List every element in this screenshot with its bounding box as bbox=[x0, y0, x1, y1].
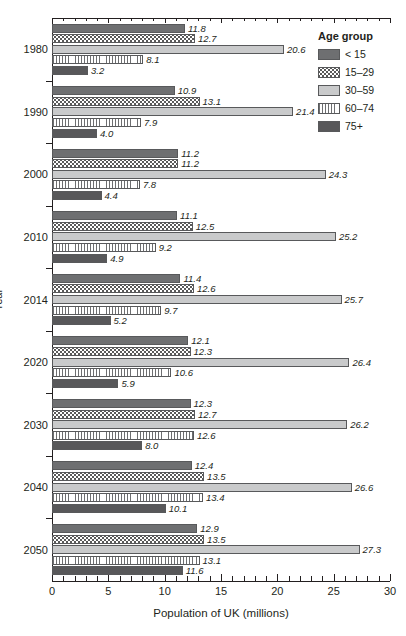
x-tick-minor bbox=[176, 576, 177, 581]
bar-2030--15 bbox=[52, 399, 191, 408]
bar-value-label: 12.7 bbox=[195, 410, 217, 419]
x-tick-minor bbox=[266, 18, 267, 21]
y-group-tick bbox=[46, 268, 52, 269]
bar-2030-60-74 bbox=[52, 431, 194, 440]
bar-2020-75+ bbox=[52, 379, 118, 388]
bar-value-label: 12.4 bbox=[192, 461, 214, 470]
legend-swatch-icon bbox=[318, 121, 340, 132]
x-tick-major bbox=[52, 18, 53, 23]
x-tick-minor bbox=[232, 576, 233, 581]
legend-label: 75+ bbox=[345, 121, 363, 132]
x-tick-minor bbox=[345, 18, 346, 21]
x-tick-minor bbox=[367, 576, 368, 581]
bar-1980-75+ bbox=[52, 66, 88, 75]
year-label-2020: 2020 bbox=[2, 357, 48, 368]
bar-2050--15 bbox=[52, 524, 197, 533]
x-tick-minor bbox=[176, 18, 177, 21]
year-label-1980: 1980 bbox=[2, 44, 48, 55]
y-tick-labels: 198019902000201020142020203020402050 bbox=[0, 0, 48, 636]
y-group-tick bbox=[46, 143, 52, 144]
x-tick-major bbox=[108, 18, 109, 23]
x-tick-major bbox=[334, 574, 335, 581]
bar-2040-15-29 bbox=[52, 472, 204, 481]
x-tick-major bbox=[334, 18, 335, 23]
x-tick-major bbox=[165, 18, 166, 23]
bar-value-label: 25.7 bbox=[342, 295, 364, 304]
legend-items: < 1515–2930–5960–7475+ bbox=[318, 47, 406, 133]
bar-1980-60-74 bbox=[52, 55, 143, 64]
legend-item-15-29: 15–29 bbox=[318, 65, 406, 79]
x-tick-label: 10 bbox=[159, 586, 171, 597]
x-tick-minor bbox=[153, 576, 154, 581]
legend-swatch-icon bbox=[318, 49, 340, 60]
bar-2014--15 bbox=[52, 274, 180, 283]
x-tick-minor bbox=[86, 576, 87, 581]
bar-value-label: 10.6 bbox=[171, 368, 193, 377]
bar-2040-75+ bbox=[52, 504, 166, 513]
bar-2050-75+ bbox=[52, 566, 183, 575]
x-tick-major bbox=[277, 18, 278, 23]
x-tick-major bbox=[221, 574, 222, 581]
year-label-1990: 1990 bbox=[2, 106, 48, 117]
bar-2030-75+ bbox=[52, 441, 142, 450]
year-label-2014: 2014 bbox=[2, 294, 48, 305]
y-group-tick bbox=[46, 393, 52, 394]
x-tick-minor bbox=[289, 576, 290, 581]
x-tick-minor bbox=[300, 18, 301, 21]
bar-value-label: 11.2 bbox=[178, 149, 199, 158]
x-tick-minor bbox=[356, 576, 357, 581]
bar-2014-75+ bbox=[52, 316, 111, 325]
bar-value-label: 11.8 bbox=[185, 24, 206, 33]
bar-value-label: 9.2 bbox=[156, 243, 172, 252]
legend-item-60-74: 60–74 bbox=[318, 101, 406, 115]
x-tick-minor bbox=[255, 18, 256, 21]
bar-value-label: 11.2 bbox=[178, 159, 199, 168]
legend-label: < 15 bbox=[345, 49, 366, 60]
x-tick-minor bbox=[142, 576, 143, 581]
bar-value-label: 12.1 bbox=[188, 336, 210, 345]
bar-2010-75+ bbox=[52, 254, 107, 263]
year-label-2010: 2010 bbox=[2, 231, 48, 242]
x-tick-label: 15 bbox=[215, 586, 227, 597]
legend-title: Age group bbox=[318, 30, 406, 42]
bar-2000-60-74 bbox=[52, 180, 140, 189]
bar-value-label: 12.6 bbox=[194, 284, 216, 293]
x-tick-minor bbox=[300, 576, 301, 581]
bar-2014-30-59 bbox=[52, 295, 342, 304]
bar-2040-30-59 bbox=[52, 483, 352, 492]
y-group-tick bbox=[46, 331, 52, 332]
legend-item--15: < 15 bbox=[318, 47, 406, 61]
bar-2020-60-74 bbox=[52, 368, 171, 377]
x-tick-minor bbox=[131, 18, 132, 21]
legend-swatch-icon bbox=[318, 67, 340, 78]
x-tick-minor bbox=[63, 576, 64, 581]
x-tick-label: 0 bbox=[49, 586, 55, 597]
bar-2020-30-59 bbox=[52, 358, 349, 367]
x-tick-label: 5 bbox=[105, 586, 111, 597]
bar-value-label: 13.4 bbox=[203, 493, 225, 502]
bar-2040--15 bbox=[52, 461, 192, 470]
bar-1990-75+ bbox=[52, 129, 97, 138]
x-tick-minor bbox=[120, 576, 121, 581]
y-axis-title: Year bbox=[0, 289, 4, 311]
x-tick-minor bbox=[63, 18, 64, 21]
bar-value-label: 12.3 bbox=[191, 399, 213, 408]
bar-value-label: 26.2 bbox=[347, 420, 369, 429]
legend-label: 15–29 bbox=[345, 67, 374, 78]
bar-value-label: 11.4 bbox=[180, 274, 201, 283]
year-label-2050: 2050 bbox=[2, 544, 48, 555]
bar-value-label: 13.5 bbox=[204, 472, 226, 481]
x-axis-bottom-line bbox=[52, 581, 390, 582]
bar-value-label: 12.7 bbox=[195, 34, 217, 43]
bar-value-label: 12.5 bbox=[193, 222, 215, 231]
bar-1990-15-29 bbox=[52, 97, 200, 106]
bar-2050-60-74 bbox=[52, 556, 200, 565]
bar-2010-60-74 bbox=[52, 243, 156, 252]
bar-value-label: 9.7 bbox=[161, 306, 177, 315]
y-group-tick bbox=[46, 81, 52, 82]
x-tick-minor bbox=[198, 576, 199, 581]
bar-value-label: 5.9 bbox=[118, 379, 134, 388]
x-tick-minor bbox=[131, 576, 132, 581]
bar-value-label: 26.6 bbox=[352, 483, 374, 492]
x-tick-minor bbox=[311, 576, 312, 581]
